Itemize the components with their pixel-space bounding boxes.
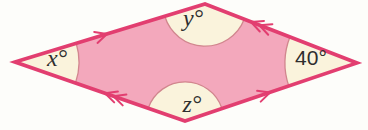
parallelogram-diagram: x° y° z° 40° — [0, 0, 368, 130]
top-angle-label: y° — [181, 5, 204, 31]
left-angle-label: x° — [46, 45, 68, 71]
geometry-figure: x° y° z° 40° — [0, 0, 368, 130]
right-angle-label: 40° — [295, 46, 327, 69]
bottom-angle-label: z° — [182, 91, 202, 117]
